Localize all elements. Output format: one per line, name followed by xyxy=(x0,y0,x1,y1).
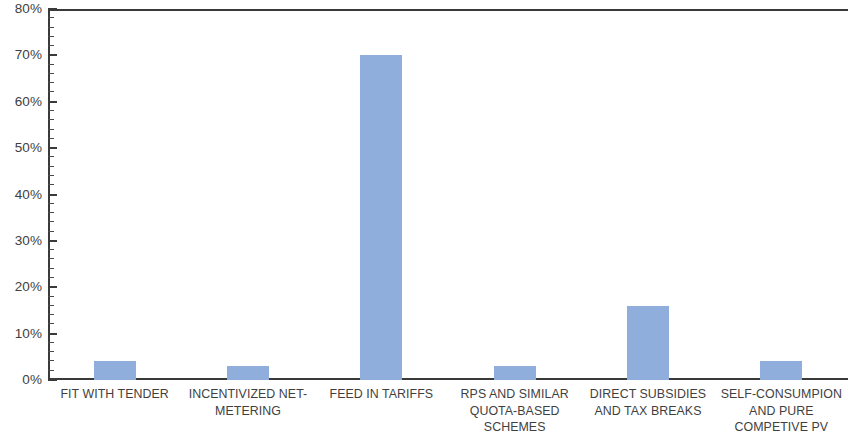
bar-chart: 80%70%60%50%40%30%20%10%0% FIT WITH TEND… xyxy=(0,0,855,446)
y-axis-tick-label: 0% xyxy=(0,373,42,387)
y-axis-tick-label: 80% xyxy=(0,2,42,16)
x-axis-category-label: INCENTIVIZED NET- METERING xyxy=(181,386,314,446)
y-axis-tick-label: 10% xyxy=(0,327,42,341)
y-axis-tick-label: 20% xyxy=(0,280,42,294)
bar xyxy=(760,361,802,380)
bar-series xyxy=(48,9,848,380)
x-axis-category-label: FEED IN TARIFFS xyxy=(315,386,448,446)
bar xyxy=(94,361,136,380)
x-axis-category-label: DIRECT SUBSIDIES AND TAX BREAKS xyxy=(581,386,714,446)
x-axis-category-labels: FIT WITH TENDERINCENTIVIZED NET- METERIN… xyxy=(48,386,848,446)
bar xyxy=(227,366,269,380)
y-axis-tick-label: 30% xyxy=(0,234,42,248)
bar xyxy=(360,55,402,380)
y-axis-tick-label: 50% xyxy=(0,141,42,155)
y-axis-tick-labels: 80%70%60%50%40%30%20%10%0% xyxy=(0,0,42,446)
bar xyxy=(627,306,669,380)
y-axis-tick-label: 70% xyxy=(0,48,42,62)
y-axis-tick-label: 60% xyxy=(0,95,42,109)
x-axis-category-label: FIT WITH TENDER xyxy=(48,386,181,446)
bar xyxy=(494,366,536,380)
x-axis-category-label: SELF-CONSUMPION AND PURE COMPETIVE PV xyxy=(715,386,848,446)
x-axis-category-label: RPS AND SIMILAR QUOTA-BASED SCHEMES xyxy=(448,386,581,446)
y-axis-tick-label: 40% xyxy=(0,188,42,202)
